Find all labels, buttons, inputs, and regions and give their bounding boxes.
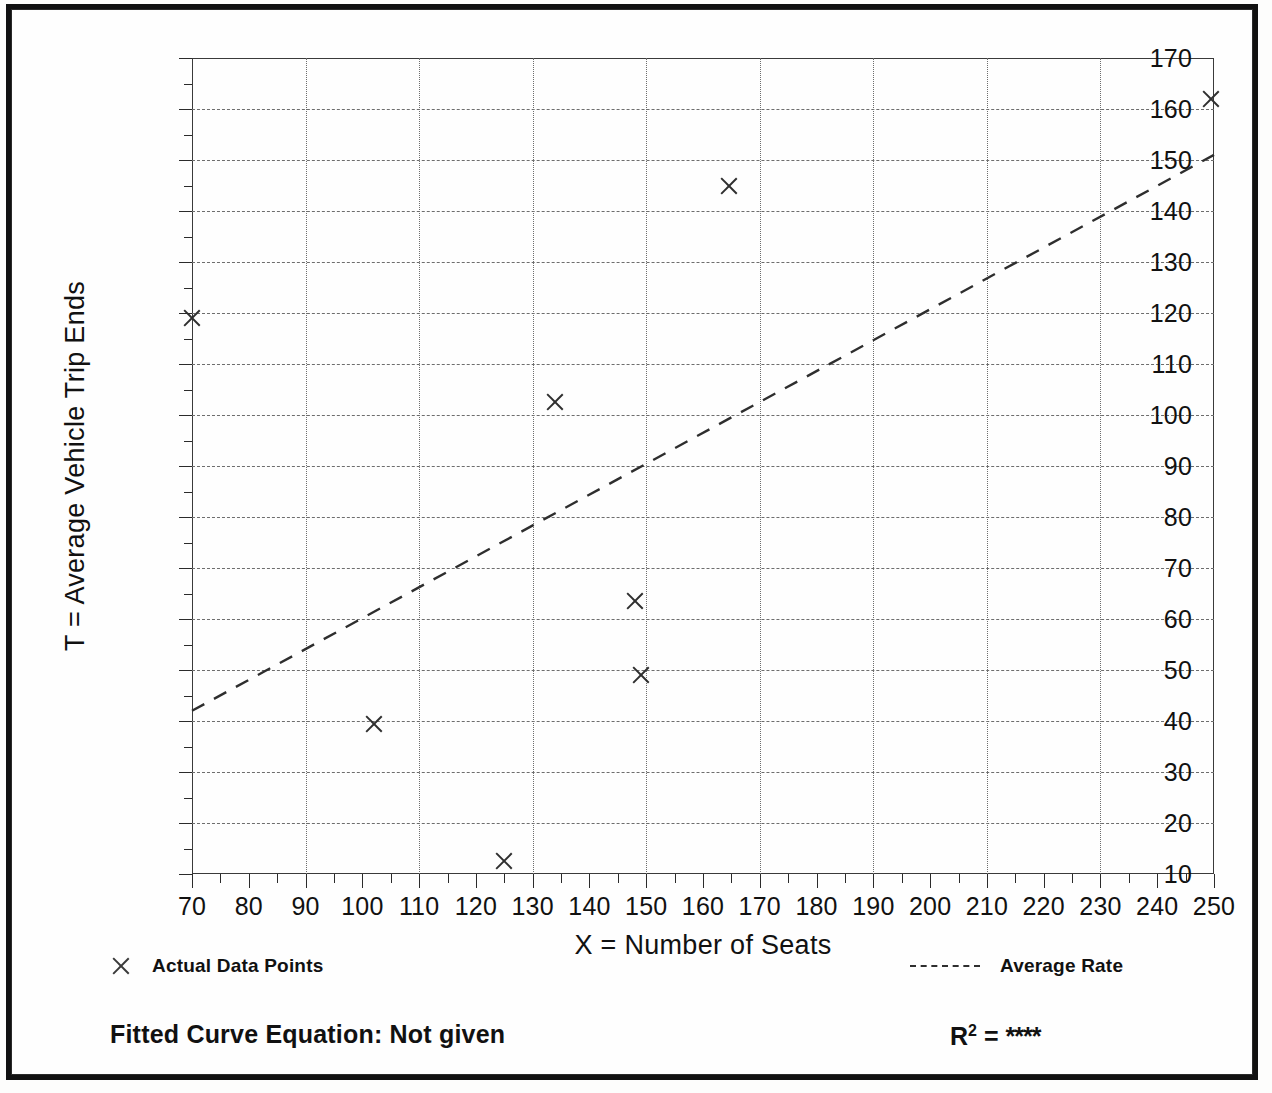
r2-exponent: 2	[968, 1022, 977, 1039]
x-axis-tick-label: 190	[852, 892, 894, 921]
data-point-marker	[493, 850, 515, 872]
legend-item-average-rate: Average Rate	[910, 955, 1123, 977]
x-axis-minor-tick	[675, 874, 676, 883]
chart-footer: Fitted Curve Equation: Not given R2 = **…	[110, 1020, 1170, 1060]
x-axis-minor-tick	[448, 874, 449, 883]
data-point-marker	[363, 713, 385, 735]
x-axis-tick	[703, 874, 704, 888]
x-axis-tick	[873, 874, 874, 888]
y-axis-tick	[179, 721, 192, 722]
x-axis-tick-label: 90	[291, 892, 319, 921]
y-axis-minor-tick	[184, 645, 192, 646]
y-axis-minor-tick	[184, 237, 192, 238]
x-axis-tick-label: 80	[235, 892, 263, 921]
legend-item-actual-data-points: Actual Data Points	[110, 955, 323, 977]
x-axis-tick	[249, 874, 250, 888]
y-axis-minor-tick	[184, 390, 192, 391]
x-axis-tick-label: 170	[739, 892, 781, 921]
x-axis-minor-tick	[334, 874, 335, 883]
fitted-curve-equation: Fitted Curve Equation: Not given	[110, 1020, 505, 1049]
x-axis-tick-label: 250	[1193, 892, 1235, 921]
r2-equals: =	[977, 1022, 1006, 1050]
y-axis-tick	[179, 874, 192, 875]
x-axis-tick	[646, 874, 647, 888]
legend-label-average-rate: Average Rate	[1000, 955, 1123, 977]
x-axis-tick	[1044, 874, 1045, 888]
x-axis-minor-tick	[561, 874, 562, 883]
r2-stars: ****	[1005, 1022, 1040, 1050]
y-axis-minor-tick	[184, 696, 192, 697]
y-axis-minor-tick	[184, 543, 192, 544]
data-point-marker	[544, 391, 566, 413]
y-axis-tick	[179, 772, 192, 773]
x-axis-minor-tick	[504, 874, 505, 883]
x-axis-tick-label: 120	[455, 892, 497, 921]
x-axis-tick-label: 150	[625, 892, 667, 921]
x-axis-minor-tick	[277, 874, 278, 883]
x-axis-minor-tick	[902, 874, 903, 883]
x-axis-tick	[476, 874, 477, 888]
y-axis-tick	[179, 568, 192, 569]
y-axis-tick	[179, 823, 192, 824]
x-axis-minor-tick	[618, 874, 619, 883]
chart-page: T = Average Vehicle Trip Ends 1020304050…	[0, 0, 1272, 1093]
y-axis-minor-tick	[184, 441, 192, 442]
x-axis-tick	[817, 874, 818, 888]
x-axis-tick-label: 220	[1023, 892, 1065, 921]
y-axis-tick	[179, 109, 192, 110]
x-axis-minor-tick	[1129, 874, 1130, 883]
y-axis-minor-tick	[184, 186, 192, 187]
x-axis-minor-tick	[788, 874, 789, 883]
y-axis-tick	[179, 619, 192, 620]
y-axis-minor-tick	[184, 135, 192, 136]
y-axis-tick	[179, 466, 192, 467]
y-axis-minor-tick	[184, 339, 192, 340]
x-axis-tick-label: 230	[1079, 892, 1121, 921]
x-axis-tick	[1100, 874, 1101, 888]
x-axis-tick-label: 210	[966, 892, 1008, 921]
x-axis-tick	[987, 874, 988, 888]
y-axis-title-text: T = Average Vehicle Trip Ends	[60, 281, 91, 651]
x-axis-tick	[589, 874, 590, 888]
dashed-line-icon	[910, 965, 980, 967]
chart-legend: Actual Data Points Average Rate	[110, 955, 1170, 991]
x-axis-tick-label: 180	[795, 892, 837, 921]
x-axis-tick-label: 130	[512, 892, 554, 921]
x-axis-tick	[306, 874, 307, 888]
x-axis-minor-tick	[391, 874, 392, 883]
x-axis-minor-tick	[220, 874, 221, 883]
x-axis-tick	[362, 874, 363, 888]
x-axis-minor-tick	[845, 874, 846, 883]
data-point-marker	[1200, 88, 1222, 110]
y-axis-minor-tick	[184, 492, 192, 493]
x-axis-tick	[533, 874, 534, 888]
y-axis-minor-tick	[184, 84, 192, 85]
data-point-marker	[181, 307, 203, 329]
data-point-marker	[624, 590, 646, 612]
x-axis-tick-label: 200	[909, 892, 951, 921]
x-axis-tick	[419, 874, 420, 888]
x-axis-minor-tick	[1072, 874, 1073, 883]
y-axis-tick	[179, 58, 192, 59]
y-axis-tick	[179, 670, 192, 671]
y-axis-minor-tick	[184, 849, 192, 850]
x-axis-tick	[930, 874, 931, 888]
legend-label-actual-data-points: Actual Data Points	[152, 955, 323, 977]
y-axis-tick	[179, 364, 192, 365]
y-axis-minor-tick	[184, 747, 192, 748]
data-point-marker	[630, 664, 652, 686]
x-axis-tick	[1214, 874, 1215, 888]
x-axis-tick-label: 140	[568, 892, 610, 921]
r2-prefix: R	[950, 1022, 968, 1050]
x-axis-tick	[1157, 874, 1158, 888]
x-axis-tick-label: 70	[178, 892, 206, 921]
y-axis-title: T = Average Vehicle Trip Ends	[58, 58, 92, 874]
plot-area: 1020304050607080901001101201301401501601…	[192, 58, 1214, 874]
x-axis-tick	[760, 874, 761, 888]
x-axis-minor-tick	[959, 874, 960, 883]
x-axis-minor-tick	[731, 874, 732, 883]
x-axis-tick-label: 110	[399, 892, 439, 921]
x-axis-tick-label: 160	[682, 892, 724, 921]
x-axis-tick	[192, 874, 193, 888]
y-axis-tick	[179, 160, 192, 161]
